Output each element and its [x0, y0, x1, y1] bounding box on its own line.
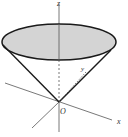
- cone-figure: z x O y: [0, 0, 128, 137]
- origin-label: O: [60, 107, 66, 116]
- cone-diagram: z x O y: [0, 0, 128, 137]
- y-axis-dashed: [59, 72, 86, 102]
- x-axis-label: x: [116, 117, 121, 126]
- slant-label: y: [80, 65, 85, 73]
- z-axis-label: z: [56, 0, 61, 8]
- y-axis-line: [32, 102, 59, 128]
